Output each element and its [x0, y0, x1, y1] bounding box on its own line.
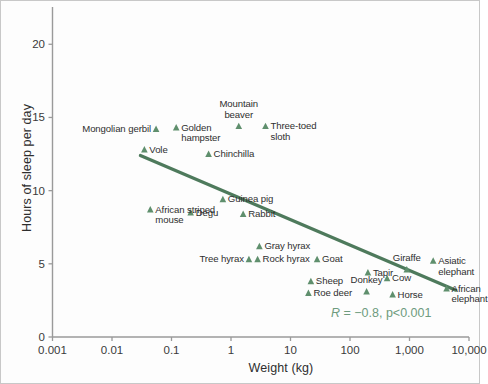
data-point-label: Chinchilla [214, 149, 255, 160]
data-point-marker [389, 291, 396, 297]
data-point-marker [254, 256, 261, 262]
y-tick-label-15: 15 [9, 111, 45, 123]
correlation-annotation: R = −0.8, p<0.001 [331, 306, 431, 320]
data-point-label: Golden hampster [181, 122, 220, 143]
data-point-label: Vole [149, 144, 167, 155]
data-point-label: Tree hyrax [199, 254, 244, 265]
x-tick-label-1: 1 [228, 344, 234, 356]
x-tick-label-0-1: 0.1 [164, 344, 180, 356]
data-point-label: Sheep [316, 276, 343, 287]
data-point-marker [141, 146, 148, 152]
data-point-label: Cow [392, 273, 411, 284]
data-point-label: Goat [322, 254, 342, 265]
x-tick-label-0-01: 0.01 [101, 344, 123, 356]
data-point-label: Horse [398, 289, 423, 300]
data-point-marker [147, 206, 154, 212]
data-point-marker [305, 289, 312, 295]
data-point-label: Mongolian gerbil [82, 124, 151, 135]
data-point-label: Gray hyrax [264, 241, 310, 252]
x-tick-label-0-001: 0.001 [38, 344, 67, 356]
data-point-label: Mountain beaver [219, 99, 258, 120]
x-tick-label-1-000: 1,000 [395, 344, 424, 356]
data-point-marker [262, 123, 269, 129]
y-tick-label-0: 0 [9, 331, 45, 343]
data-point-marker [153, 126, 160, 132]
data-point-marker [173, 124, 180, 130]
data-point-label: Three-toed sloth [270, 121, 316, 142]
data-point-marker [240, 210, 247, 216]
data-point-marker [430, 257, 437, 263]
y-axis-title: Hours of sleep per day [20, 68, 34, 268]
data-point-label: Guinea pig [228, 194, 273, 205]
data-point-marker [308, 278, 315, 284]
data-point-marker [314, 256, 321, 262]
data-point-label: Rabbit [248, 209, 275, 220]
data-point-label: Degu [196, 207, 219, 218]
data-point-label: Asiatic elephant [438, 256, 474, 277]
data-point-marker [256, 243, 263, 249]
data-point-marker [205, 150, 212, 156]
data-point-label: Donkey [351, 275, 383, 286]
data-point-marker [246, 256, 253, 262]
y-tick-label-5: 5 [9, 258, 45, 270]
data-point-label: Roe deer [313, 288, 352, 299]
x-axis-title: Weight (kg) [131, 361, 431, 375]
x-tick-label-10-000: 10,000 [451, 344, 486, 356]
data-point-label: African elephant [452, 283, 488, 304]
data-point-label: Giraffe [393, 253, 421, 264]
correlation-r-value: = −0.8, p<0.001 [340, 306, 431, 320]
data-point-marker [220, 196, 227, 202]
y-tick-label-10: 10 [9, 185, 45, 197]
x-tick-label-10: 10 [284, 344, 297, 356]
data-point-marker [235, 123, 242, 129]
correlation-r-symbol: R [331, 306, 340, 320]
y-tick-label-20: 20 [9, 38, 45, 50]
data-point-label: Rock hyrax [263, 254, 310, 265]
data-point-marker [363, 288, 370, 294]
x-tick-label-100: 100 [340, 344, 359, 356]
